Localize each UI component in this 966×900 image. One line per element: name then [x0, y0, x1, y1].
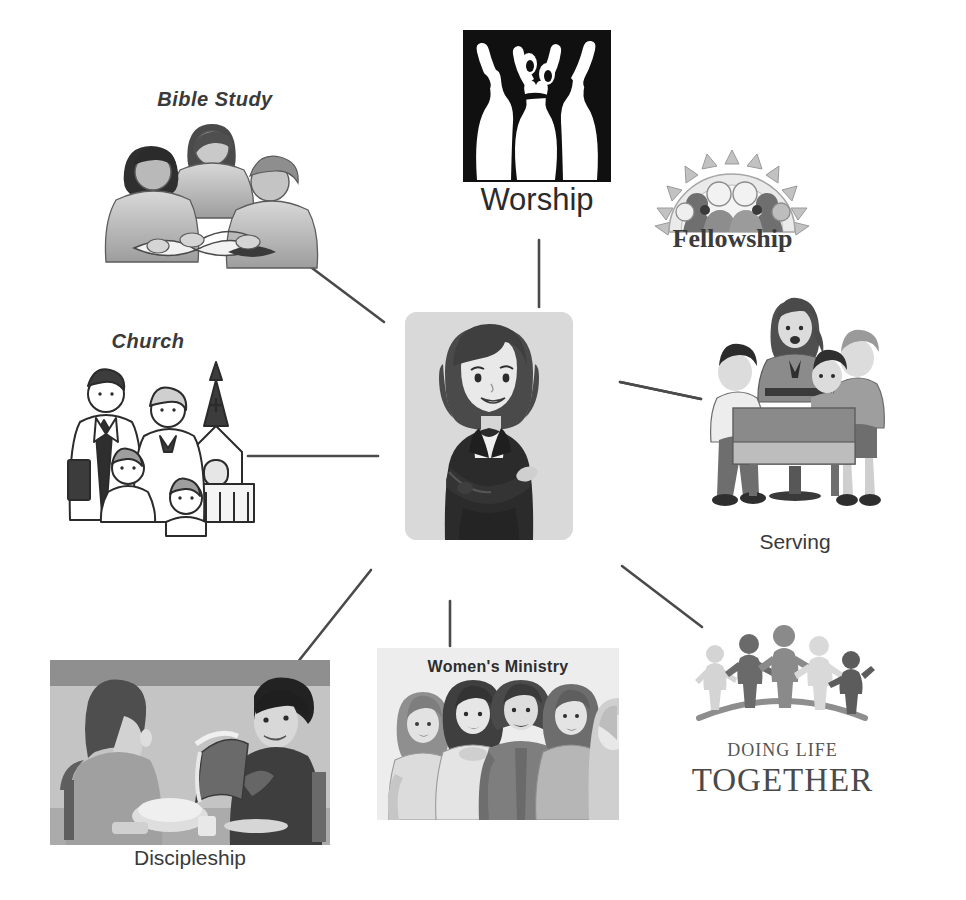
family-with-church-steeple-lineart — [58, 352, 273, 537]
diagram-canvas: Bible Study — [0, 0, 966, 900]
together-label: TOGETHER — [685, 762, 880, 799]
connector-center-to-serving — [620, 382, 701, 399]
two-people-reading-book-photo — [50, 660, 330, 845]
five-figures-holding-hands-logo — [685, 612, 880, 732]
womens-ministry-label: Women's Ministry — [377, 658, 619, 676]
node-bible-study[interactable]: Bible Study — [100, 100, 330, 275]
church-label: Church — [58, 330, 238, 353]
serving-label: Serving — [705, 530, 885, 554]
woman-serving-children-at-table — [705, 290, 885, 522]
node-discipleship[interactable]: Discipleship — [50, 660, 330, 860]
node-doing-life-together[interactable]: DOING LIFE TOGETHER — [685, 612, 880, 797]
bible-study-label: Bible Study — [100, 88, 330, 111]
node-fellowship[interactable]: Fellowship — [645, 148, 820, 268]
worship-label: Worship — [457, 182, 617, 218]
node-church[interactable]: Church — [58, 352, 273, 537]
node-worship[interactable]: Worship — [463, 30, 615, 240]
discipleship-label: Discipleship — [50, 846, 330, 870]
node-center-figure[interactable] — [405, 312, 573, 540]
node-serving[interactable]: Serving — [705, 290, 885, 560]
doing-life-label: DOING LIFE — [685, 740, 880, 761]
three-people-studying-illustration — [100, 100, 330, 275]
node-womens-ministry[interactable]: Women's Ministry — [377, 648, 619, 820]
fellowship-label: Fellowship — [645, 224, 820, 254]
fellowship-sunburst-group-logo — [645, 148, 820, 236]
center-plate — [405, 312, 573, 540]
connector-center-to-discipleship — [297, 570, 371, 663]
worship-raised-arms-logo — [463, 30, 611, 182]
